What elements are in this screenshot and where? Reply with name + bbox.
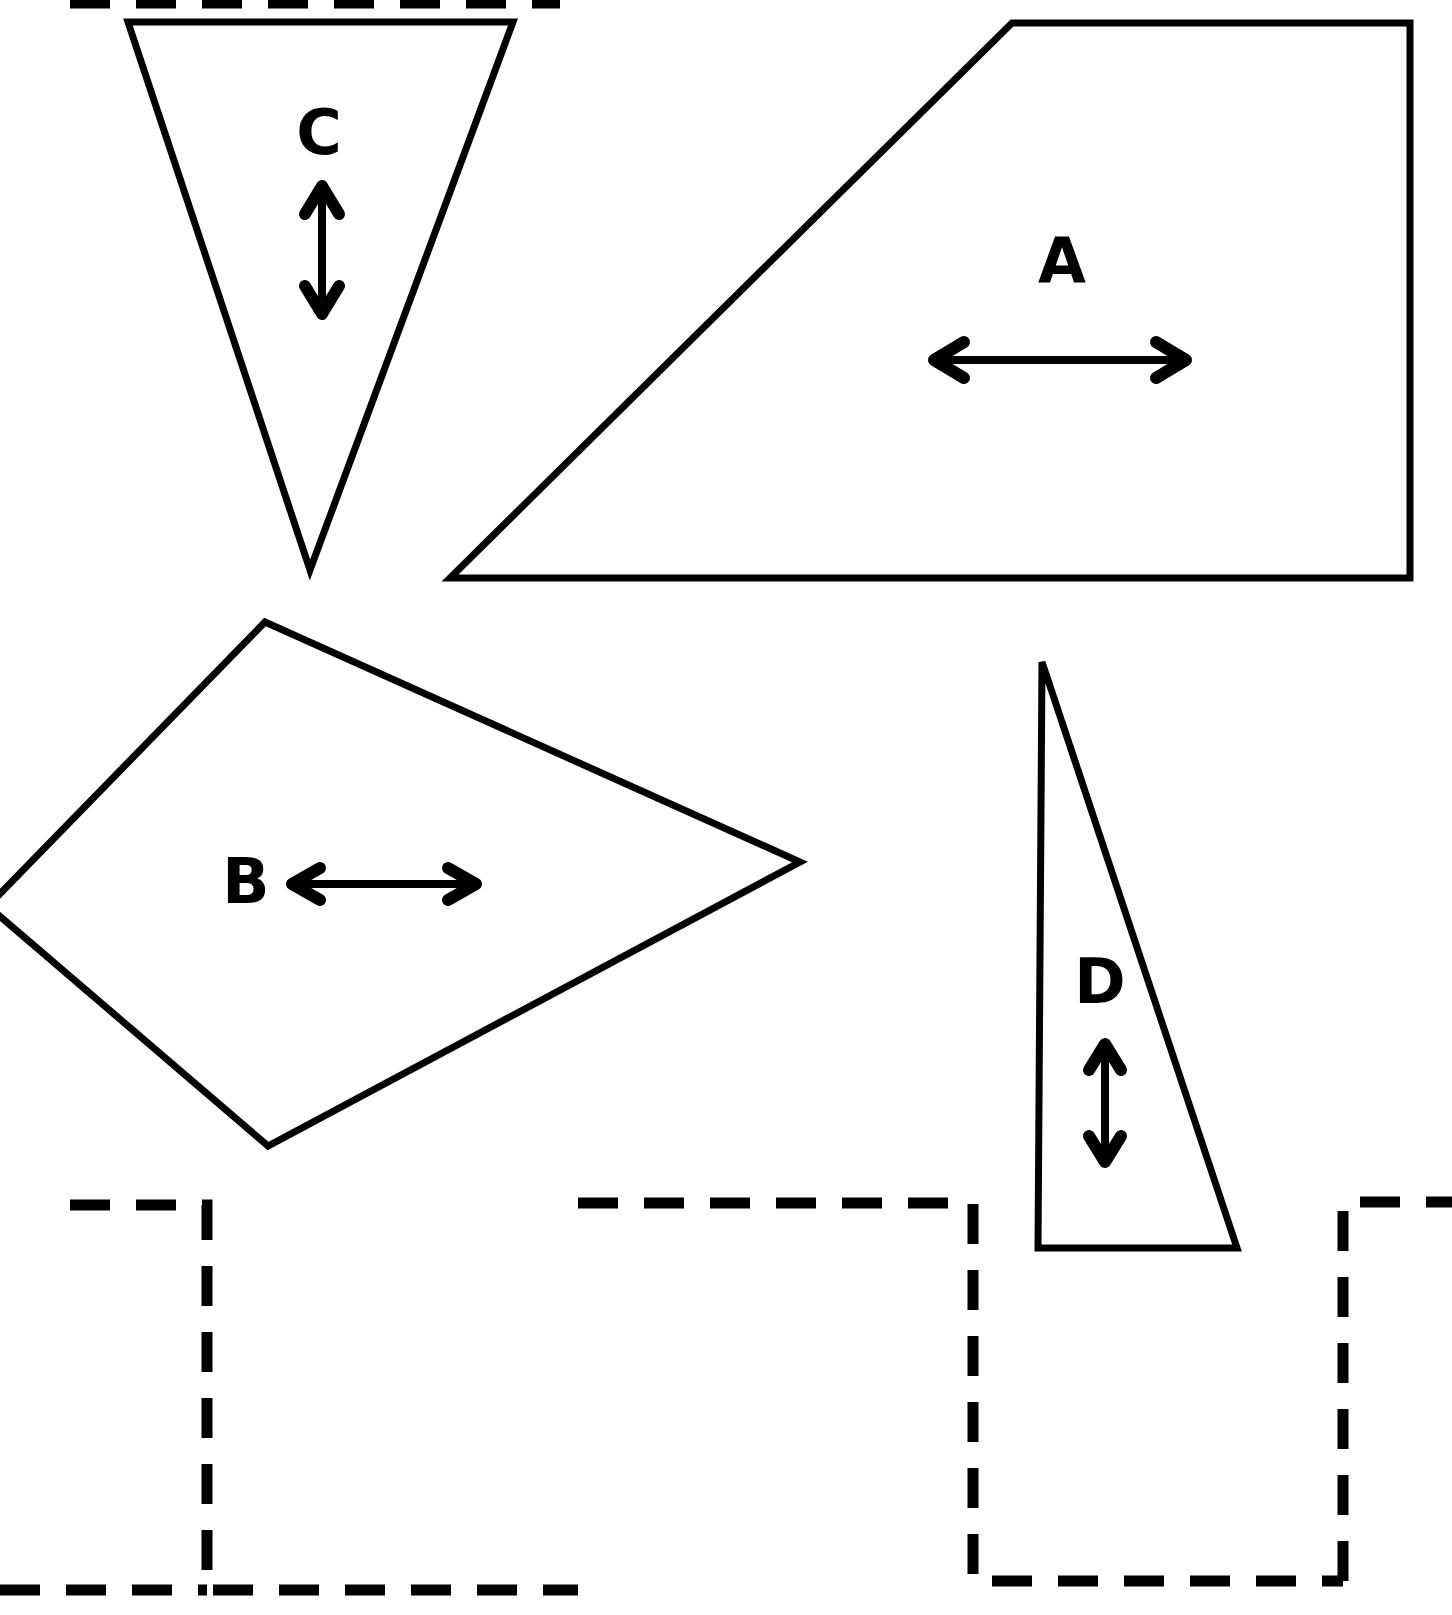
shape-b-label: B	[222, 845, 269, 918]
dashed-target-2[interactable]	[578, 1203, 1343, 1581]
shape-c-group[interactable]: C	[128, 22, 513, 570]
shape-fitting-figure: A C B	[0, 0, 1452, 1615]
shape-b-group[interactable]: B	[0, 622, 800, 1146]
dashed-target-1[interactable]	[70, 1205, 570, 1590]
dashed-target-3[interactable]	[1343, 1202, 1452, 1581]
shape-d-group[interactable]: D	[1038, 662, 1237, 1248]
shape-a-group[interactable]: A	[450, 23, 1410, 578]
shape-d-label: D	[1074, 945, 1125, 1018]
figure-canvas: A C B	[0, 0, 1452, 1615]
shape-c-label: C	[296, 96, 342, 169]
shape-a-label: A	[1038, 224, 1086, 297]
shape-d-outline[interactable]	[1038, 662, 1237, 1248]
shape-a-outline[interactable]	[450, 23, 1410, 578]
